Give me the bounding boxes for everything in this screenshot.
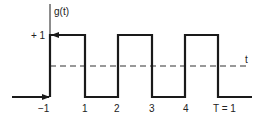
tick-label: T = 1: [213, 103, 236, 114]
tick-label: 1: [82, 103, 88, 114]
square-wave-diagram: g(t) t + 1 −1 1 2 3 4 T = 1: [0, 0, 263, 121]
tick-label: 2: [114, 103, 120, 114]
y-axis-label: g(t): [54, 6, 69, 17]
level-label: + 1: [31, 30, 46, 41]
tick-label: 4: [183, 103, 189, 114]
tick-label: −1: [38, 103, 50, 114]
x-axis-label: t: [245, 54, 248, 65]
tick-label: 3: [149, 103, 155, 114]
